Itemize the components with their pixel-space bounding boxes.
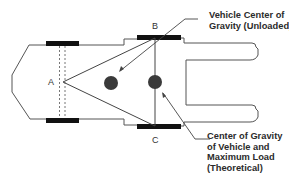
callout-loaded-text: Center of Gravity of Vehicle and Maximum… [207, 131, 282, 173]
body-top-edge [78, 39, 137, 45]
point-a-label: A [48, 77, 54, 87]
body-bottom-edge [79, 119, 137, 125]
cog-unloaded-marker [104, 76, 118, 90]
wheel-rear-top [46, 41, 79, 46]
arrowhead-icon [119, 66, 124, 72]
vehicle-body-outline [12, 45, 46, 119]
point-c-label: C [152, 135, 159, 145]
cog-loaded-marker [148, 75, 162, 89]
fork-outline [180, 38, 258, 126]
wheel-front-bottom [137, 124, 181, 129]
wheel-rear-bottom [46, 118, 79, 123]
callout-unloaded-text: Vehicle Center of Gravity (Unloaded) [209, 10, 289, 31]
point-b-label: B [152, 21, 158, 31]
